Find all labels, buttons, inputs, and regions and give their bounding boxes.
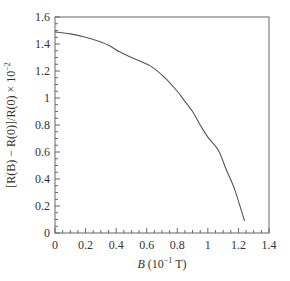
tick-label: 0.6 <box>35 145 50 159</box>
x-axis-label: B (10−1 T) <box>138 256 187 271</box>
tick-label: 1.2 <box>35 64 50 78</box>
tick-label: 0 <box>52 238 58 252</box>
tick-labels: 00.20.40.60.811.21.400.20.40.60.811.21.4… <box>35 10 277 252</box>
tick-label: 0.4 <box>109 238 124 252</box>
tick-label: 1 <box>44 91 50 105</box>
tick-label: 1.4 <box>35 37 50 51</box>
chart: 00.20.40.60.811.21.400.20.40.60.811.21.4… <box>0 0 290 281</box>
tick-label: 0 <box>44 226 50 240</box>
data-curve <box>55 32 245 221</box>
tick-label: 0.8 <box>35 118 50 132</box>
tick-label: 1.6 <box>35 10 50 24</box>
tick-label: 0.4 <box>35 172 50 186</box>
tick-label: 1.2 <box>231 238 246 252</box>
tick-label: 1.4 <box>262 238 277 252</box>
y-axis-label: [R(B) − R(0)]/R(0) × 10−2 <box>3 62 18 187</box>
plot-frame <box>55 17 269 233</box>
axis-ticks <box>55 17 269 233</box>
tick-label: 0.2 <box>35 199 50 213</box>
tick-label: 0.6 <box>139 238 154 252</box>
tick-label: 0.2 <box>78 238 93 252</box>
tick-label: 1 <box>205 238 211 252</box>
tick-label: 0.8 <box>170 238 185 252</box>
